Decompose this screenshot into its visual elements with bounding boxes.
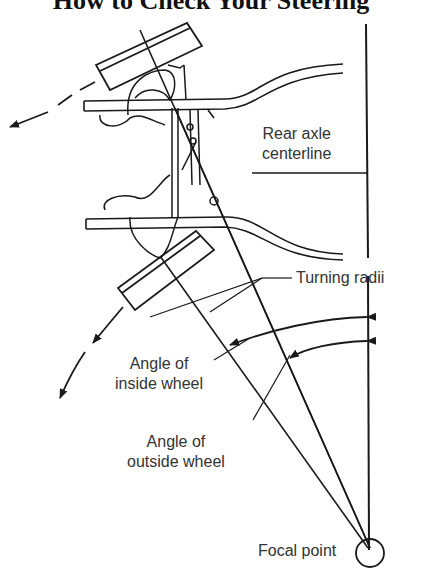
rear-axle-label-line2: centerline xyxy=(262,144,331,164)
turn-direction-arrow-upper xyxy=(10,82,95,127)
turning-radii-leaders xyxy=(150,278,292,317)
angle-outside-wheel-label: Angle of outside wheel xyxy=(127,432,225,472)
angle-leaders xyxy=(214,338,290,420)
focal-point-marker xyxy=(356,539,384,567)
turn-direction-arrow-lower xyxy=(60,307,123,398)
turning-radii-label: Turning radii xyxy=(296,268,384,288)
angle-inside-arc xyxy=(230,317,367,345)
angle-inside-line2: inside wheel xyxy=(115,374,203,394)
steering-knuckle-lower xyxy=(104,175,178,258)
angle-inside-line1: Angle of xyxy=(115,354,203,374)
frame-rail-lower xyxy=(86,217,343,260)
left-front-wheel xyxy=(96,23,202,90)
rear-axle-label-line1: Rear axle xyxy=(262,124,331,144)
rear-axle-label: Rear axle centerline xyxy=(262,124,331,164)
focal-point-label: Focal point xyxy=(258,541,336,561)
steering-linkage xyxy=(172,108,218,217)
angle-inside-wheel-label: Angle of inside wheel xyxy=(115,354,203,394)
angle-outside-line2: outside wheel xyxy=(127,452,225,472)
angle-outside-arc xyxy=(290,341,367,358)
right-front-wheel xyxy=(118,231,214,310)
angle-outside-line1: Angle of xyxy=(127,432,225,452)
